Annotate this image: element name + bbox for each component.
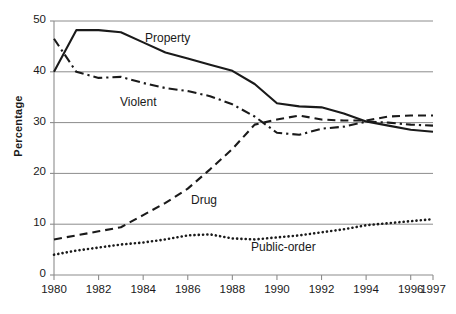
y-tick-label: 50 <box>6 13 46 25</box>
y-tick-label: 10 <box>6 216 46 228</box>
y-tick-label: 40 <box>6 64 46 76</box>
axes <box>50 21 433 280</box>
y-tick-label: 20 <box>6 165 46 177</box>
series-label-property: Property <box>145 31 190 45</box>
series-label-drug: Drug <box>191 193 217 207</box>
x-tick-label: 1994 <box>342 283 390 295</box>
series-line-property <box>54 30 433 132</box>
x-tick-label: 1986 <box>164 283 212 295</box>
x-tick-label: 1988 <box>208 283 256 295</box>
line-chart: Percentage 50403020100 19801982198419861… <box>0 0 456 314</box>
x-tick-label: 1982 <box>75 283 123 295</box>
y-tick-label: 30 <box>6 115 46 127</box>
series-line-violent <box>54 39 433 135</box>
plot-area <box>0 0 456 314</box>
series-paths <box>54 30 433 255</box>
x-tick-label: 1992 <box>298 283 346 295</box>
x-tick-label: 1980 <box>30 283 78 295</box>
series-line-drug <box>54 115 433 239</box>
x-tick-label: 1990 <box>253 283 301 295</box>
series-label-violent: Violent <box>120 95 156 109</box>
gridlines <box>54 21 433 275</box>
series-label-public-order: Public-order <box>251 240 316 254</box>
x-tick-label: 1997 <box>409 283 456 295</box>
x-tick-label: 1984 <box>119 283 167 295</box>
y-tick-label: 0 <box>6 267 46 279</box>
